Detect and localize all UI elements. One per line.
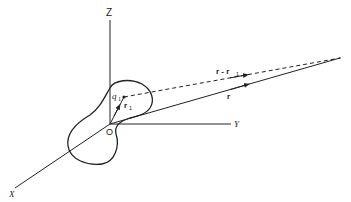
diagram-canvas: Z Y X O q 1 r 1 r - r 1 r bbox=[0, 0, 351, 202]
r1-arrowhead-icon bbox=[114, 107, 119, 117]
x-axis-label: X bbox=[8, 189, 15, 199]
charge-point-q1 bbox=[122, 95, 125, 98]
x-axis bbox=[15, 124, 110, 188]
origin-label: O bbox=[106, 127, 113, 137]
y-axis-label: Y bbox=[234, 119, 240, 129]
r-vector-arrowhead-icon bbox=[230, 85, 247, 90]
r1-label: r bbox=[124, 101, 127, 110]
r1-subscript: 1 bbox=[129, 105, 132, 111]
field-point bbox=[339, 57, 341, 59]
r-minus-r1-subscript: 1 bbox=[236, 71, 239, 77]
r-minus-r1-label: r - r bbox=[216, 67, 229, 76]
q1-label: q bbox=[112, 91, 117, 101]
q1-subscript: 1 bbox=[118, 96, 121, 102]
z-axis-label: Z bbox=[106, 7, 112, 18]
r-label: r bbox=[227, 92, 230, 101]
